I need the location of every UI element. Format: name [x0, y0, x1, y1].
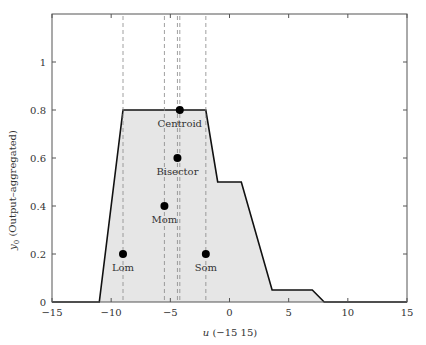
area-fill — [52, 110, 407, 302]
y-tick-label: 0.2 — [30, 249, 46, 260]
defuzzification-chart: −15−10−505101500.20.40.60.81 CentroidBis… — [0, 0, 426, 345]
aggregated-area — [52, 110, 407, 302]
defuzz-label: Lom — [112, 262, 135, 273]
x-tick-label: −15 — [41, 307, 62, 318]
defuzz-point-mom — [160, 202, 168, 210]
defuzz-point-centroid — [176, 106, 184, 114]
x-tick-label: 0 — [226, 307, 232, 318]
y-tick-label: 0 — [40, 297, 46, 308]
x-tick-label: 5 — [285, 307, 291, 318]
y-tick-label: 1 — [40, 57, 46, 68]
defuzz-point-bisector — [173, 154, 181, 162]
defuzz-label: Bisector — [156, 166, 198, 177]
defuzz-label: Centroid — [158, 118, 203, 129]
defuzz-label: Som — [195, 262, 218, 273]
defuzz-point-som — [202, 250, 210, 258]
x-tick-label: 10 — [341, 307, 354, 318]
x-tick-label: −10 — [101, 307, 122, 318]
x-tick-label: −5 — [163, 307, 178, 318]
y-axis-label: y0 (Output–aggregated) — [7, 130, 21, 251]
y-tick-label: 0.4 — [30, 201, 46, 212]
defuzz-point-lom — [119, 250, 127, 258]
y-tick-label: 0.8 — [30, 105, 46, 116]
x-tick-label: 15 — [401, 307, 414, 318]
defuzz-label: Mom — [152, 214, 178, 225]
x-axis-label: u (−15 15) — [203, 327, 258, 338]
y-tick-label: 0.6 — [30, 153, 46, 164]
